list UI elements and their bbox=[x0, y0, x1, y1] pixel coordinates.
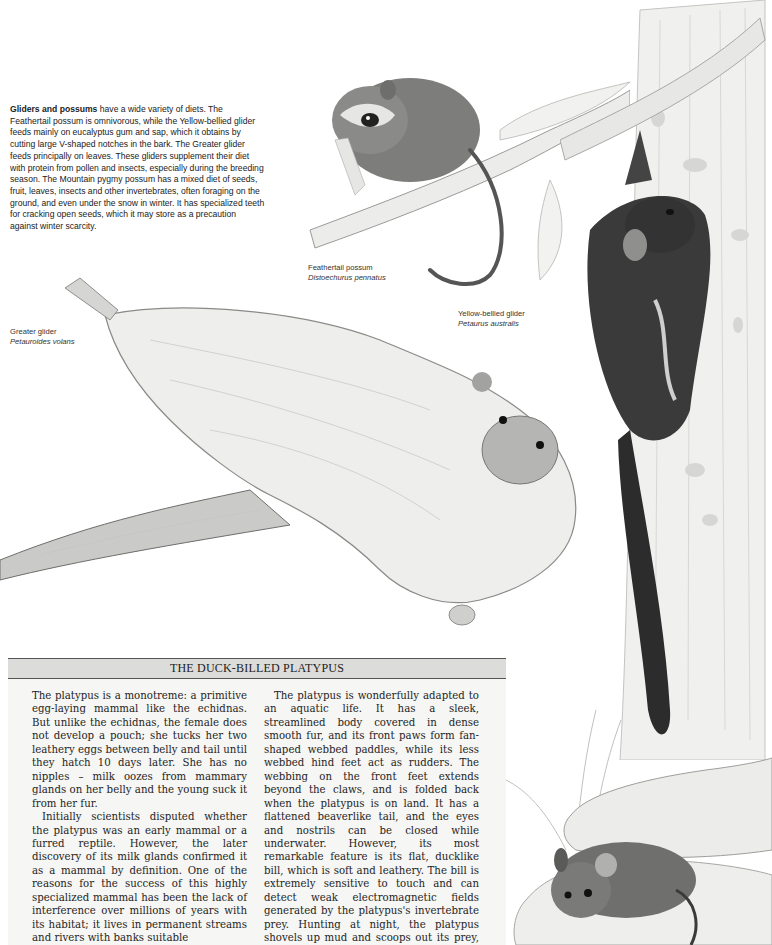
greater-glider-latin-name: Petauroides volans bbox=[10, 337, 75, 347]
platypus-paragraph: The platypus is wonderfully adapted to a… bbox=[264, 689, 479, 945]
yellow-bellied-glider-illustration bbox=[560, 0, 772, 760]
greater-glider-label: Greater glider Petauroides volans bbox=[10, 327, 75, 347]
intro-text: have a wide variety of diets. The Feathe… bbox=[10, 104, 264, 231]
greater-glider-common-name: Greater glider bbox=[10, 327, 56, 336]
platypus-paragraph: Initially scientists disputed whether th… bbox=[32, 810, 247, 945]
platypus-column-1: The platypus is a monotreme: a primitive… bbox=[32, 689, 247, 945]
platypus-column-2: The platypus is wonderfully adapted to a… bbox=[264, 689, 479, 945]
intro-lead: Gliders and possums bbox=[10, 104, 97, 114]
platypus-sidebar-box: THE DUCK-BILLED PLATYPUS The platypus is… bbox=[8, 658, 506, 945]
platypus-box-title: THE DUCK-BILLED PLATYPUS bbox=[8, 658, 506, 679]
intro-paragraph: Gliders and possums have a wide variety … bbox=[10, 104, 265, 233]
greater-glider-illustration bbox=[0, 270, 590, 640]
mountain-pygmy-possum-illustration bbox=[506, 700, 772, 945]
platypus-paragraph: The platypus is a monotreme: a primitive… bbox=[32, 689, 247, 810]
